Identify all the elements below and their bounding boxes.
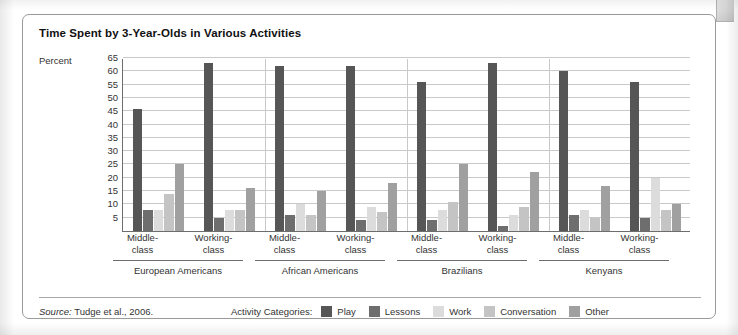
legend-item: Other <box>569 306 609 317</box>
legend-swatch <box>433 306 444 317</box>
bar-other <box>317 191 327 231</box>
bar-other <box>601 186 611 231</box>
screenshot-root: Time Spent by 3-Year-Olds in Various Act… <box>0 0 738 335</box>
bar-lessons <box>498 226 508 231</box>
y-axis-tick: 45 <box>107 105 118 116</box>
legend-item: Lessons <box>369 306 420 317</box>
subgroup-label-line1: Working- <box>195 232 233 243</box>
subgroup-label-line1: Working- <box>621 232 659 243</box>
panel-divider <box>407 59 408 231</box>
subgroup-label-line1: Middle- <box>411 232 442 243</box>
bar-work <box>438 210 448 231</box>
y-axis-tick: 30 <box>107 145 118 156</box>
x-axis-subgroup-label: Working-class <box>462 232 533 255</box>
y-axis-tick: 25 <box>107 158 118 169</box>
bar-play <box>275 66 285 231</box>
legend-swatch <box>569 306 580 317</box>
subgroup-label-line1: Middle- <box>553 232 584 243</box>
x-axis-group-label: Brazilians <box>397 260 527 276</box>
subgroup-label-line2: class <box>487 244 509 255</box>
page-corner-fold <box>716 0 734 22</box>
legend-swatch <box>484 306 495 317</box>
bar-lessons <box>356 220 366 231</box>
legend-label: Work <box>449 306 471 317</box>
subgroup-label-line2: class <box>416 244 438 255</box>
y-axis-tick: 65 <box>107 52 118 63</box>
bar-other <box>672 204 682 231</box>
x-axis-subgroup-label: Working-class <box>178 232 249 255</box>
bar-conversation <box>306 215 316 231</box>
panel-divider <box>549 59 550 231</box>
bar-lessons <box>640 218 650 231</box>
subgroup-label-line2: class <box>203 244 225 255</box>
bar-work <box>154 210 164 231</box>
subgroup-label-line2: class <box>274 244 296 255</box>
bar-play <box>559 71 569 231</box>
x-axis-group-label: European Americans <box>113 260 243 276</box>
bar-conversation <box>661 210 671 231</box>
subgroup-label-line2: class <box>345 244 367 255</box>
bar-conversation <box>448 202 458 231</box>
bar-other <box>246 188 256 231</box>
bar-conversation <box>164 194 174 231</box>
bar-lessons <box>143 210 153 231</box>
legend-swatch <box>321 306 332 317</box>
bar-other <box>530 172 540 231</box>
legend-label: Other <box>585 306 609 317</box>
y-axis-tick: 50 <box>107 91 118 102</box>
y-axis-tick: 35 <box>107 131 118 142</box>
chart-legend: Activity Categories: PlayLessonsWorkConv… <box>231 306 622 317</box>
plot-canvas: 5101520253035404550556065 <box>122 59 690 232</box>
subgroup-label-line1: Working- <box>337 232 375 243</box>
bar-lessons <box>285 215 295 231</box>
bar-conversation <box>519 207 529 231</box>
bar-work <box>367 207 377 231</box>
legend-item: Conversation <box>484 306 556 317</box>
gridline: 65 <box>123 57 690 58</box>
legend-item: Play <box>321 306 355 317</box>
y-axis-tick: 60 <box>107 65 118 76</box>
bar-play <box>417 82 427 231</box>
legend-item: Work <box>433 306 471 317</box>
y-axis-tick: 5 <box>113 211 118 222</box>
legend-label: Conversation <box>500 306 556 317</box>
y-axis-tick: 15 <box>107 185 118 196</box>
bar-play <box>204 63 214 231</box>
subgroup-label-line1: Middle- <box>127 232 158 243</box>
footer-divider <box>39 297 701 298</box>
bar-play <box>488 63 498 231</box>
x-axis-subgroup-label: Middle-class <box>107 232 178 255</box>
subgroup-label-line1: Middle- <box>269 232 300 243</box>
y-axis-tick: 20 <box>107 171 118 182</box>
bar-conversation <box>377 212 387 231</box>
bar-lessons <box>427 220 437 231</box>
subgroup-label-line2: class <box>132 244 154 255</box>
bar-play <box>630 82 640 231</box>
y-axis-label: Percent <box>39 55 72 66</box>
x-axis-group-label: African Americans <box>255 260 385 276</box>
source-citation: Tudge et al., 2006. <box>72 306 153 317</box>
page-title: Time Spent by 3-Year-Olds in Various Act… <box>39 27 301 39</box>
figure-card: Time Spent by 3-Year-Olds in Various Act… <box>22 14 716 319</box>
legend-label: Play <box>337 306 355 317</box>
bar-other <box>388 183 398 231</box>
plot-area: Percent 5101520253035404550556065 <box>39 53 701 258</box>
subgroup-label-line2: class <box>558 244 580 255</box>
y-axis-tick: 55 <box>107 78 118 89</box>
legend-label: Lessons <box>385 306 420 317</box>
x-axis-subgroup-label: Working-class <box>320 232 391 255</box>
bar-other <box>459 164 469 231</box>
bar-work <box>296 204 306 231</box>
bar-work <box>225 210 235 231</box>
y-axis-tick: 40 <box>107 118 118 129</box>
bar-play <box>133 109 143 231</box>
x-axis-subgroup-label: Middle-class <box>249 232 320 255</box>
bar-lessons <box>214 218 224 231</box>
bar-work <box>509 215 519 231</box>
panel-divider <box>265 59 266 231</box>
x-axis-group-label: Kenyans <box>539 260 669 276</box>
bar-play <box>346 66 356 231</box>
x-axis: Middle-classWorking-classMiddle-classWor… <box>107 232 675 294</box>
source-note: Source: Tudge et al., 2006. <box>39 306 153 317</box>
legend-title: Activity Categories: <box>231 306 312 317</box>
